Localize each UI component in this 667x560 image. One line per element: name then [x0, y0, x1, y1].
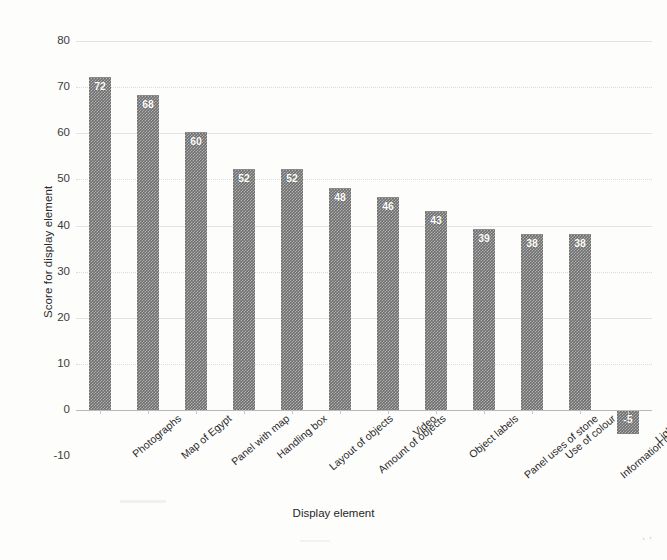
y-tick-label-20: 20 [30, 311, 70, 323]
x-tick-label: Map of Egypt [178, 412, 233, 461]
scan-artifact [300, 540, 330, 542]
bar[interactable]: 60 [185, 132, 207, 410]
bar[interactable]: 72 [89, 77, 111, 410]
y-tick-label-50: 50 [30, 172, 70, 184]
bar-value-label: 43 [425, 214, 447, 226]
y-tick-label-40: 40 [30, 219, 70, 231]
bar-slot: 46 [364, 41, 412, 410]
x-tick-label: Information on label [618, 412, 667, 480]
y-tick-label-60: 60 [30, 126, 70, 138]
bar[interactable]: 52 [281, 169, 303, 410]
bar[interactable]: 43 [425, 211, 447, 410]
y-tick-label-30: 30 [30, 265, 70, 277]
x-tick-label: Object labels [466, 412, 520, 460]
y-tick-label-10: 10 [30, 357, 70, 369]
bar[interactable]: 52 [233, 169, 255, 410]
y-tick-label-0: 0 [30, 403, 70, 415]
bar-slot: 60 [172, 41, 220, 410]
bar[interactable]: 46 [377, 197, 399, 410]
bar-value-label: 48 [329, 191, 351, 203]
bar[interactable]: 68 [137, 95, 159, 410]
bar-value-label: 52 [281, 172, 303, 184]
y-tick-label--10: -10 [30, 449, 70, 461]
y-axis-title: Score for display element [42, 186, 54, 318]
bar-slot: 52 [220, 41, 268, 410]
bar-slot: 52 [268, 41, 316, 410]
bar-value-label: 38 [569, 237, 591, 249]
bar-slot: 38 [508, 41, 556, 410]
bar[interactable]: 48 [329, 188, 351, 410]
bar-slot: 39 [460, 41, 508, 410]
bar-slot: 48 [316, 41, 364, 410]
bar[interactable]: 39 [473, 229, 495, 410]
y-tick-label-70: 70 [30, 80, 70, 92]
bar-value-label: 38 [521, 237, 543, 249]
bar-slot: 38 [556, 41, 604, 410]
bar-series: 7268605252484643393838-5 [76, 41, 652, 410]
bar-slot: 43 [412, 41, 460, 410]
x-tick-label: Panel uses of stone [522, 412, 600, 480]
bar-slot: 68 [124, 41, 172, 410]
bar[interactable]: 38 [521, 234, 543, 410]
bar-value-label: 52 [233, 172, 255, 184]
bar-slot: 72 [76, 41, 124, 410]
bar-value-label: 60 [185, 135, 207, 147]
bar-value-label: 68 [137, 98, 159, 110]
bar-value-label: 39 [473, 232, 495, 244]
bar-slot: -5 [604, 41, 652, 410]
bar[interactable]: 38 [569, 234, 591, 410]
x-axis-title: Display element [0, 507, 667, 519]
y-tick-label-80: 80 [30, 34, 70, 46]
x-axis-tick-labels: PhotographsMap of EgyptPanel with mapHan… [76, 412, 652, 502]
chart-figure: Score for display element 80706050403020… [0, 0, 667, 560]
bar-value-label: 72 [89, 80, 111, 92]
scan-corner-artifact: ' ' [643, 534, 654, 546]
x-tick-label: Photographs [130, 412, 183, 459]
bar-value-label: 46 [377, 200, 399, 212]
